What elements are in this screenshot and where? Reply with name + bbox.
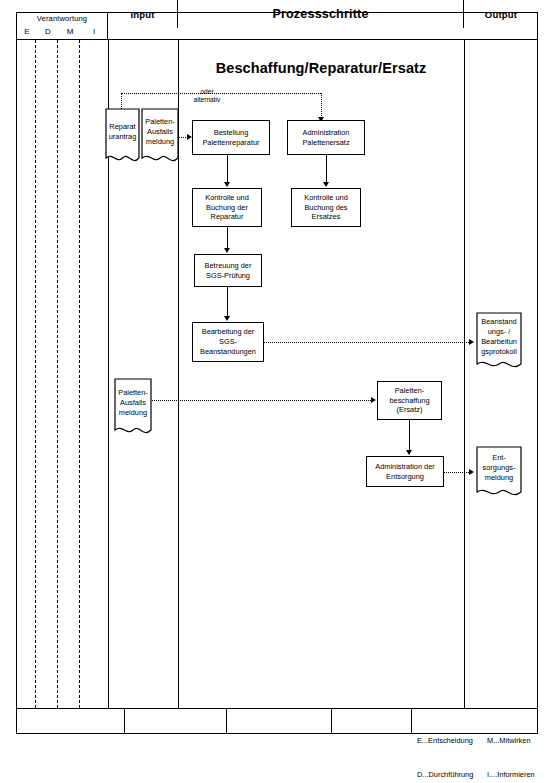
footer-separator-2 xyxy=(226,708,227,734)
legend-entry-d: D...Durchführung xyxy=(417,769,473,780)
legend-column-right: M...Mitwirken I....Informieren xyxy=(487,712,535,783)
conn-ausfallsmeldung-to-beschaffung xyxy=(152,400,371,401)
conn-administration-to-kontrolle xyxy=(326,155,327,182)
step-kontrolle-buchung-reparatur[interactable]: Kontrolle undBuchung derReparatur xyxy=(192,188,262,227)
document-label: Paletten-Ausfallsmeldung xyxy=(114,378,152,428)
step-betreuung-sgs-pruefung[interactable]: Betreuung derSGS-Prüfung xyxy=(194,254,262,287)
responsibility-letter-m: M xyxy=(63,27,77,36)
step-palettenbeschaffung-ersatz[interactable]: Paletten-beschaffung(Ersatz) xyxy=(377,381,442,420)
alternative-label: oder alternativ xyxy=(178,88,236,104)
step-administration-palettenersatz[interactable]: AdministrationPalettenersatz xyxy=(287,120,365,155)
document-reparaturantrag[interactable]: Reparaturantrag xyxy=(105,108,140,168)
conn-arrow-protokoll xyxy=(469,339,474,345)
conn-beschaffung-to-entsorgung xyxy=(409,420,410,450)
step-administration-entsorgung[interactable]: Administration derEntsorgung xyxy=(366,456,444,487)
header-output: Output xyxy=(464,0,538,28)
conn-kontrolle-to-betreuung xyxy=(227,227,228,248)
legend-text-e: Entscheidung xyxy=(428,736,473,745)
document-palettenausfallsmeldung-2[interactable]: Paletten-Ausfallsmeldung xyxy=(114,378,152,440)
footer-separator-4 xyxy=(411,708,412,734)
step-kontrolle-buchung-ersatz[interactable]: Kontrolle undBuchung desErsatzes xyxy=(291,188,361,227)
responsibility-title: Verantwortung xyxy=(16,14,108,23)
legend-column-left: E...Entscheidung D...Durchführung xyxy=(417,712,473,783)
legend-entry-m: M...Mitwirken xyxy=(487,735,535,746)
conn-arrow-beschaffung xyxy=(371,397,376,403)
step-bearbeitung-sgs-beanstandungen[interactable]: Bearbeitung derSGS-Beanstandungen xyxy=(192,322,264,362)
footer-separator-3 xyxy=(331,708,332,734)
responsibility-letter-e: E xyxy=(20,27,34,36)
document-palettenausfallsmeldung-1[interactable]: Paletten-Ausfallsmeldung xyxy=(141,108,179,168)
responsibility-divider-2 xyxy=(57,40,58,708)
conn-arrow-kontrolle-reparatur xyxy=(224,182,230,187)
conn-bearbeitung-to-protokoll xyxy=(264,342,469,343)
document-label: Reparaturantrag xyxy=(105,108,140,156)
legend-entry-e: E...Entscheidung xyxy=(417,735,473,746)
conn-bestellung-to-kontrolle xyxy=(227,155,228,182)
responsibility-letters: E D M I xyxy=(16,27,108,39)
header-input: Input xyxy=(108,0,178,28)
legend-key-e: E... xyxy=(417,736,428,745)
responsibility-divider-1 xyxy=(35,40,36,708)
legend-text-i: Informieren xyxy=(497,770,534,779)
document-entsorgungsmeldung[interactable]: Ent-sorgungs-meldung xyxy=(476,446,522,502)
diagram-frame xyxy=(16,12,538,734)
conn-entsorgung-to-meldung xyxy=(444,472,469,473)
footer-separator-1 xyxy=(124,708,125,734)
legend-text-m: Mitwirken xyxy=(499,736,530,745)
legend-entry-i: I....Informieren xyxy=(487,769,535,780)
header-prozessschritte: Prozessschritte xyxy=(178,0,464,28)
conn-betreuung-to-bearbeitung xyxy=(227,287,228,316)
conn-arrow-entsorgung xyxy=(406,450,412,455)
conn-arrow-betreuung xyxy=(224,248,230,253)
legend-key-d: D... xyxy=(417,770,429,779)
legend-key-m: M... xyxy=(487,736,499,745)
legend-key-i: I.... xyxy=(487,770,497,779)
page-title: Beschaffung/Reparatur/Ersatz xyxy=(178,60,464,76)
document-label: Ent-sorgungs-meldung xyxy=(476,446,522,490)
responsibility-divider-3 xyxy=(79,40,80,708)
legend-text-d: Durchführung xyxy=(429,770,474,779)
step-bestellung-palettenreparatur[interactable]: BestellungPalettenreparatur xyxy=(192,120,270,155)
header-responsibility: Verantwortung E D M I xyxy=(16,12,108,40)
responsibility-letter-i: I xyxy=(87,27,101,36)
conn-arrow-bestellung xyxy=(187,134,192,140)
column-separator-process xyxy=(464,40,465,708)
conn-arrow-kontrolle-ersatz xyxy=(323,182,329,187)
conn-arrow-meldung xyxy=(469,469,474,475)
responsibility-letter-d: D xyxy=(41,27,55,36)
alternative-label-line1: oder xyxy=(178,88,236,96)
document-label: Paletten-Ausfallsmeldung xyxy=(141,108,179,156)
document-beanstandungsprotokoll[interactable]: Beanstandungs- /Bearbeitungsprotokoll xyxy=(476,312,522,374)
alt-branch-down-right xyxy=(321,93,322,118)
conn-arrow-bearbeitung xyxy=(224,316,230,321)
document-label: Beanstandungs- /Bearbeitungsprotokoll xyxy=(476,312,522,362)
alternative-label-line2: alternativ xyxy=(178,96,236,104)
